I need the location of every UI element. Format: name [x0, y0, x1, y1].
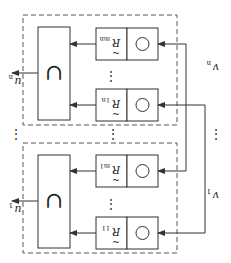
svg-text:m1: m1 [100, 162, 110, 170]
svg-text:R: R [112, 225, 121, 238]
svg-text:u: u [14, 75, 21, 88]
rule-row-mn: R ~ mn [70, 28, 186, 60]
input-label-v1: v 1 [207, 187, 220, 202]
svg-text:n: n [206, 59, 211, 67]
group-1-union-symbol: ∪ [45, 189, 63, 214]
tilde-icon: ~ [112, 48, 120, 58]
rule-label-cell [96, 28, 127, 60]
group-n-row-ellipsis: ⋮ [105, 69, 117, 83]
tilde-icon: ~ [112, 109, 120, 119]
composition-op-cell [127, 28, 158, 60]
composition-op-cell [127, 217, 158, 249]
rule-label-cell [96, 217, 127, 249]
svg-text:R: R [112, 163, 121, 176]
rule-label-cell [96, 155, 127, 187]
composition-op-cell [127, 155, 158, 187]
group-1-output-label: u 1 [9, 201, 22, 216]
fuzzy-inference-block-diagram: ∪ u n R ~ mn ⋮ [0, 0, 231, 263]
svg-text:v: v [212, 61, 219, 74]
input-label-vn: v n [206, 59, 219, 74]
tilde-icon: ~ [112, 175, 120, 185]
svg-text:11: 11 [102, 224, 110, 232]
svg-text:v: v [212, 189, 219, 202]
group-1-row-ellipsis: ⋮ [105, 197, 117, 211]
between-groups-ellipsis-left: ⋮ [10, 127, 22, 141]
group-n-union-symbol: ∪ [45, 61, 63, 86]
svg-text:mn: mn [100, 35, 110, 43]
tilde-icon: ~ [112, 237, 120, 247]
svg-text:1: 1 [9, 201, 13, 209]
rule-label-cell [96, 89, 127, 121]
composition-op-cell [127, 89, 158, 121]
group-n-output-label: u n [8, 73, 22, 88]
svg-text:1n: 1n [102, 96, 110, 104]
group-n: ∪ u n R ~ mn ⋮ [8, 15, 205, 125]
rule-row-11: R ~ 11 [70, 217, 205, 249]
rule-row-m1: R ~ m1 [70, 155, 186, 187]
svg-text:u: u [14, 203, 21, 216]
between-groups-ellipsis-right: ⋮ [210, 127, 222, 141]
svg-text:R: R [112, 97, 121, 110]
group-1: ∪ u 1 R ~ m1 ⋮ [9, 143, 205, 253]
svg-text:n: n [8, 73, 13, 81]
rule-row-1n: R ~ 1n [70, 89, 205, 121]
svg-text:1: 1 [207, 187, 211, 195]
between-groups-ellipsis-center: ⋮ [107, 127, 119, 141]
svg-text:R: R [112, 36, 121, 49]
